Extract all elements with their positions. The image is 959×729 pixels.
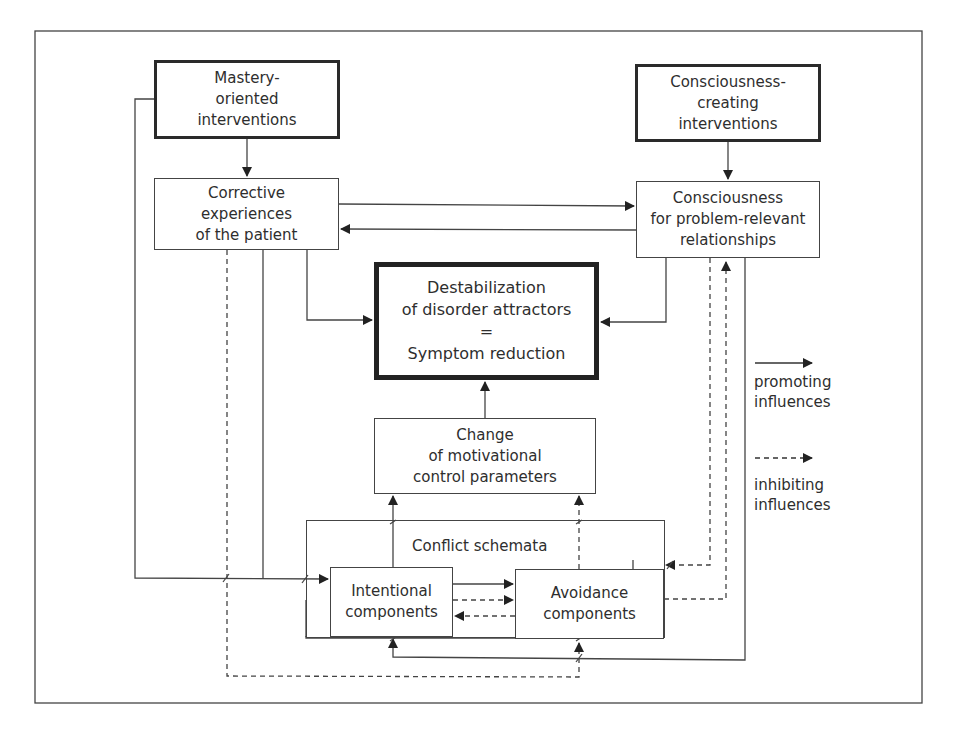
legend-promoting-label: promoting influences [754,372,831,412]
consciousness-creating-box: Consciousness- creating interventions [635,64,821,142]
mastery-interventions-box: Mastery- oriented interventions [154,60,340,139]
change-parameters-label: Change of motivational control parameter… [413,425,557,488]
change-parameters-box: Change of motivational control parameter… [374,418,596,494]
destabilization-label: Destabilization of disorder attractors =… [402,277,572,365]
intentional-components-box: Intentional components [330,567,453,637]
intentional-components-label: Intentional components [345,581,438,623]
consciousness-relationships-box: Consciousness for problem-relevant relat… [636,181,820,258]
diagram-canvas: Mastery- oriented interventions Consciou… [0,0,959,729]
consciousness-relationships-label: Consciousness for problem-relevant relat… [651,188,806,251]
corrective-experiences-box: Corrective experiences of the patient [154,178,339,250]
conflict-schemata-label: Conflict schemata [412,536,547,556]
corrective-experiences-label: Corrective experiences of the patient [196,183,298,246]
avoidance-components-label: Avoidance components [543,583,636,625]
mastery-interventions-label: Mastery- oriented interventions [197,68,296,131]
destabilization-box: Destabilization of disorder attractors =… [374,262,599,380]
legend-inhibiting-label: inhibiting influences [754,475,831,515]
avoidance-components-box: Avoidance components [515,569,664,639]
consciousness-creating-label: Consciousness- creating interventions [670,72,786,135]
